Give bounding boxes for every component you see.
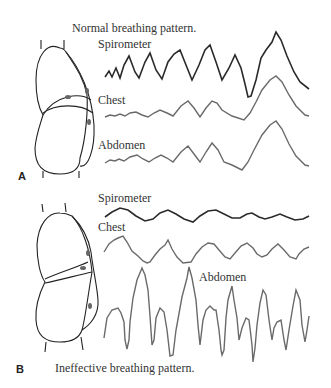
breathing-pattern-diagram	[0, 0, 331, 388]
panel-letter-a: A	[18, 170, 26, 182]
torso-outline-a	[35, 40, 94, 178]
label-abdomen-a: Abdomen	[98, 138, 145, 153]
spirometer-trace-b	[105, 208, 309, 222]
chest-trace-a	[105, 76, 309, 120]
caption-panel-a: Normal breathing pattern.	[72, 21, 196, 36]
torso-outline-b	[36, 203, 98, 352]
caption-panel-b: Ineffective breathing pattern.	[55, 361, 194, 376]
panel-letter-b: B	[16, 363, 24, 375]
label-chest-a: Chest	[98, 93, 125, 108]
label-abdomen-b: Abdomen	[199, 270, 246, 285]
label-spirometer-b: Spirometer	[98, 191, 151, 206]
chest-trace-b	[104, 236, 309, 263]
label-chest-b: Chest	[98, 220, 125, 235]
label-spirometer-a: Spirometer	[98, 37, 151, 52]
